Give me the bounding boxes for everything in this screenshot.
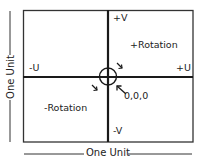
horizontal-unit-label: One Unit xyxy=(86,148,130,158)
origin-label: 0,0,0 xyxy=(124,91,148,101)
rotation-arrow-upper-icon xyxy=(117,63,122,69)
negative-rotation-label: -Rotation xyxy=(44,103,87,113)
vertical-unit-label: One Unit xyxy=(6,55,16,99)
negative-u-label: -U xyxy=(29,63,39,73)
positive-u-label: +U xyxy=(176,63,191,73)
negative-v-label: -V xyxy=(113,126,122,136)
positive-rotation-label: +Rotation xyxy=(130,40,178,50)
uv-rotation-diagram: +V -V +U -U +Rotation -Rotation 0,0,0 On… xyxy=(0,0,202,162)
rotation-arrow-lower-icon xyxy=(92,85,97,91)
positive-v-label: +V xyxy=(113,13,127,23)
diagram-graphics xyxy=(0,0,202,162)
